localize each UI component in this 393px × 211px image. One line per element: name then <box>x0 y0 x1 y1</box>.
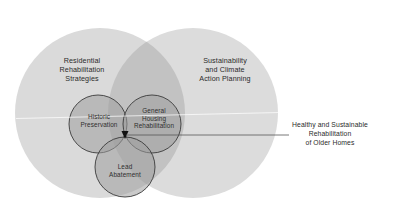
historic-preservation-label: Historic Preservation <box>72 113 126 128</box>
callout-label: Healthy and Sustainable Rehabilitation o… <box>283 121 377 147</box>
lead-abatement-label: Lead Abatement <box>98 163 152 178</box>
residential-rehabilitation-label: Residential Rehabilitation Strategies <box>42 56 122 83</box>
general-housing-label: General Housing Rehabilitation <box>127 107 181 130</box>
sustainability-climate-label: Sustainability and Climate Action Planni… <box>183 56 267 83</box>
venn-diagram <box>0 0 393 211</box>
